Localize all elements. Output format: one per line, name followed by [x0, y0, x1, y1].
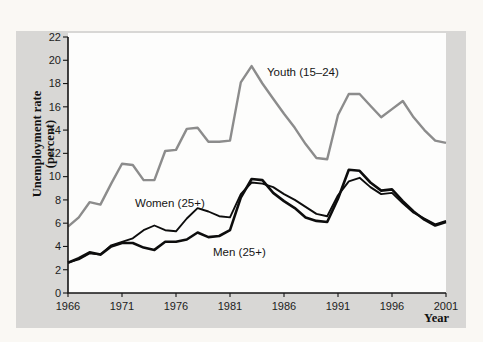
x-tick-label: 1966 — [56, 300, 80, 312]
unemployment-line-chart: 0246810121416182022196619711976198119861… — [0, 0, 483, 342]
y-tick-label: 6 — [55, 217, 61, 229]
y-tick-label: 10 — [49, 170, 61, 182]
y-tick-label: 22 — [49, 31, 61, 43]
y-tick-label: 0 — [55, 287, 61, 299]
x-tick-label: 1991 — [326, 300, 350, 312]
x-tick-label: 1986 — [272, 300, 296, 312]
x-tick-label: 1976 — [164, 300, 188, 312]
figure-canvas: 0246810121416182022196619711976198119861… — [0, 0, 483, 342]
y-tick-label: 2 — [55, 264, 61, 276]
y-tick-label: 8 — [55, 194, 61, 206]
x-axis-title: Year — [424, 311, 449, 325]
y-tick-label: 16 — [49, 101, 61, 113]
y-axis-title-line2: (percent) — [43, 120, 57, 168]
x-tick-label: 1981 — [218, 300, 242, 312]
y-tick-label: 4 — [55, 240, 61, 252]
x-tick-label: 1996 — [380, 300, 404, 312]
y-tick-label: 18 — [49, 77, 61, 89]
men-series-label: Men (25+) — [213, 246, 266, 258]
y-axis-title-line1: Unemployment rate — [30, 90, 44, 197]
y-tick-label: 20 — [49, 54, 61, 66]
x-tick-label: 1971 — [110, 300, 134, 312]
youth-series-label: Youth (15–24) — [267, 66, 339, 78]
women-series-label: Women (25+) — [135, 197, 205, 209]
